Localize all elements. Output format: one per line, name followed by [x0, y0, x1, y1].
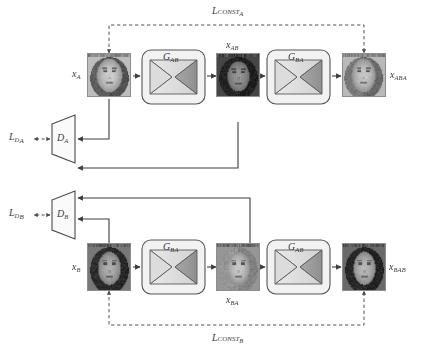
- label-discriminator-d-a: DA: [57, 133, 68, 143]
- label-generator-g-ab-bottom: GAB: [288, 242, 304, 252]
- label-loss-const-b: LCONSTB: [212, 333, 244, 343]
- diagram-canvas: x_ABA ====== --> x_BAB ====== --> LCONST…: [0, 0, 424, 352]
- image-x-ab: [216, 53, 260, 97]
- label-image-x-bab: xBAB: [389, 262, 406, 272]
- path-xba-to-db: [78, 198, 250, 243]
- image-x-ba: [216, 243, 260, 291]
- label-image-x-ba: xBA: [226, 295, 239, 305]
- label-image-x-a: xA: [72, 69, 81, 79]
- image-x-bab: [342, 243, 386, 291]
- image-x-aba: [342, 53, 386, 97]
- label-loss-d-a: LDA: [9, 132, 24, 142]
- label-loss-d-b: LDB: [9, 208, 24, 218]
- label-image-x-aba: xABA: [390, 70, 407, 80]
- path-xa-to-da: [78, 99, 109, 139]
- image-x-a: [87, 53, 131, 97]
- label-image-x-ab: xAB: [226, 40, 239, 50]
- label-discriminator-d-b: DB: [57, 209, 68, 219]
- path-xab-to-da: [78, 122, 238, 168]
- label-generator-g-ab-top: GAB: [163, 52, 179, 62]
- label-loss-const-a: LCONSTA: [212, 6, 244, 16]
- label-generator-g-ba-top: GBA: [288, 52, 304, 62]
- label-generator-g-ba-bottom: GBA: [163, 242, 179, 252]
- image-x-b: [87, 243, 131, 291]
- label-image-x-b: xB: [72, 262, 81, 272]
- path-xb-to-db: [78, 219, 109, 243]
